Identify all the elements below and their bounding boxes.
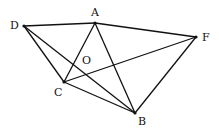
- segment-FB: [135, 37, 196, 113]
- label-B: B: [138, 115, 146, 128]
- segment-DC: [24, 26, 64, 82]
- vertex-D: [22, 24, 25, 27]
- label-A: A: [90, 6, 100, 19]
- segments: [22, 21, 197, 114]
- label-D: D: [10, 19, 19, 32]
- vertex-F: [194, 35, 197, 38]
- label-C: C: [54, 86, 62, 99]
- label-O: O: [82, 54, 91, 67]
- segment-DB: [24, 26, 135, 113]
- segment-AB: [95, 23, 135, 113]
- label-F: F: [202, 31, 210, 44]
- vertex-C: [62, 80, 65, 83]
- geometric-diagram: D A F C B O: [0, 0, 219, 129]
- vertex-A: [93, 21, 96, 24]
- segment-DA: [24, 23, 95, 26]
- vertex-B: [133, 111, 136, 114]
- segment-AF: [95, 23, 196, 37]
- segment-CB: [64, 82, 135, 113]
